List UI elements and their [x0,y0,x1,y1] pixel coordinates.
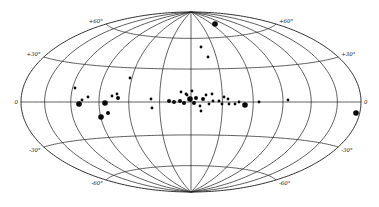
latitude-label: -30° [341,147,353,153]
data-point-medium [106,111,110,115]
latitude-label: -60° [91,180,103,186]
latitude-label: 0 [364,99,368,105]
data-point-small [200,46,203,49]
data-point-small [258,101,261,104]
data-point-small [199,105,202,108]
data-point-small [211,93,214,96]
graticule [21,12,361,192]
data-point-large [98,114,104,120]
data-point-small [191,90,194,93]
data-points [74,21,359,120]
data-point-small [185,93,188,96]
data-point-small [81,99,84,102]
latitude-label: +60° [279,18,294,24]
data-point-small [129,77,132,80]
data-point-medium [178,99,182,103]
data-point-small [111,95,114,98]
chart-canvas: +60°+60°+30°+30°00-30°-30°-60°-60° [0,0,379,207]
data-point-medium [194,96,198,100]
data-point-small [238,101,241,104]
data-point-medium [192,101,196,105]
latitude-label: -60° [279,180,291,186]
data-point-small [218,100,221,103]
data-point-small [227,98,230,101]
data-point-medium [201,97,205,101]
data-point-small [207,56,210,59]
data-point-large [76,101,82,107]
data-point-medium [182,101,186,105]
data-point-small [87,96,90,99]
data-point-large [102,100,108,106]
data-point-small [212,100,215,103]
latitude-label: +30° [341,51,356,57]
data-point-small [74,87,77,90]
data-point-small [221,103,224,106]
latitude-label: +60° [89,18,104,24]
data-point-small [116,93,119,96]
data-point-small [228,103,231,106]
data-point-small [208,103,211,106]
data-point-small [234,103,237,106]
latitude-label: -30° [29,147,41,153]
data-point-small [180,91,183,94]
data-point-small [223,96,226,99]
latitude-label: 0 [15,99,19,105]
all-sky-projection-chart: +60°+60°+30°+30°00-30°-30°-60°-60° [0,0,379,207]
data-point-small [151,107,154,110]
latitude-label: +30° [26,51,41,57]
data-point-small [205,94,208,97]
data-point-large [212,21,218,27]
data-point-small [150,98,153,101]
data-point-medium [167,99,171,103]
data-point-small [200,110,203,113]
data-point-large [242,102,248,108]
data-point-medium [116,96,120,100]
data-point-medium [172,100,176,104]
data-point-large [353,110,359,116]
data-point-small [287,99,290,102]
data-point-large [187,96,193,102]
